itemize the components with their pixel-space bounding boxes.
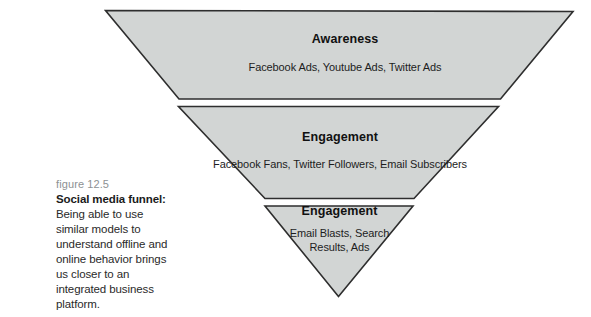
figure-caption-body: Being able to use similar models to unde… — [56, 207, 178, 312]
figure-caption-title: Social media funnel: — [56, 192, 178, 207]
funnel-tier-2-heading: Engagement — [205, 129, 475, 145]
figure-number: figure 12.5 — [56, 177, 178, 192]
figure-caption: figure 12.5 Social media funnel: Being a… — [56, 177, 178, 312]
funnel-tier-1-items: Facebook Ads, Youtube Ads, Twitter Ads — [145, 60, 545, 74]
funnel-tier-2-items: Facebook Fans, Twitter Followers, Email … — [205, 157, 475, 171]
funnel-tier-3-label-group: Engagement Email Blasts, Search Results,… — [272, 203, 407, 254]
figure-container: Awareness Facebook Ads, Youtube Ads, Twi… — [0, 0, 591, 317]
funnel-tier-2-label-group: Engagement Facebook Fans, Twitter Follow… — [205, 129, 475, 171]
funnel-tier-3-heading: Engagement — [272, 203, 407, 219]
funnel-tier-1-label-group: Awareness Facebook Ads, Youtube Ads, Twi… — [145, 31, 545, 74]
funnel-tier-3-items: Email Blasts, Search Results, Ads — [272, 226, 407, 254]
funnel-tier-1-heading: Awareness — [145, 31, 545, 47]
